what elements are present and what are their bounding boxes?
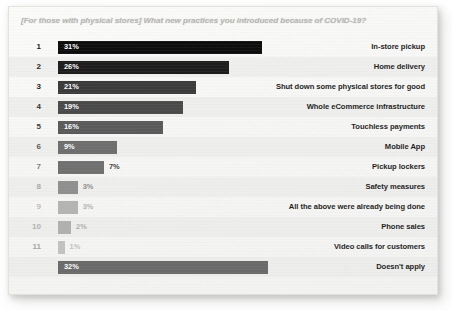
category-label: Pickup lockers [372,157,425,177]
category-label: All the above were already being done [289,197,425,217]
rank-number: 9 [25,197,41,217]
rank-number: 1 [25,37,41,57]
chart-row: 419%Whole eCommerce infrastructure [9,97,437,117]
bar-value-label: 3% [83,177,94,197]
rank-number [25,257,41,277]
bar-track: 3% [58,197,288,217]
category-label: Video calls for customers [334,237,425,257]
rank-number: 3 [25,77,41,97]
category-label: Shut down some physical stores for good [276,77,425,97]
bar-value-label: 1% [70,237,81,257]
bar-track: 1% [58,237,288,257]
bar-track: 26% [58,57,288,77]
chart-row: 32%Doesn't apply [9,257,437,277]
chart-row: 83%Safety measures [9,177,437,197]
bar-value-label: 7% [109,157,120,177]
rank-number: 4 [25,97,41,117]
category-label: Mobile App [385,137,425,157]
category-label: Doesn't apply [376,257,425,277]
bar [58,221,71,234]
rank-number: 8 [25,177,41,197]
bar-value-label: 2% [76,217,87,237]
rank-number: 2 [25,57,41,77]
bar-track: 7% [58,157,288,177]
chart-row: 321%Shut down some physical stores for g… [9,77,437,97]
bar [58,261,268,274]
chart-rows: 131%In-store pickup226%Home delivery321%… [9,37,437,277]
rank-number: 7 [25,157,41,177]
category-label: Safety measures [365,177,425,197]
bar-track: 21% [58,77,288,97]
bar-value-label: 19% [64,97,79,117]
chart-row: 226%Home delivery [9,57,437,77]
category-label: Home delivery [374,57,425,77]
bar-value-label: 26% [64,57,79,77]
bar-value-label: 21% [64,77,79,97]
chart-row: 131%In-store pickup [9,37,437,57]
bar [58,61,229,74]
rank-number: 6 [25,137,41,157]
category-label: Whole eCommerce infrastructure [307,97,425,117]
bar-value-label: 32% [64,257,79,277]
bar-chart: [For those with physical stores] What ne… [9,7,437,294]
bar [58,201,78,214]
bar-track: 16% [58,117,288,137]
bar [58,181,78,194]
bar-value-label: 16% [64,117,79,137]
chart-row: 93%All the above were already being done [9,197,437,217]
rank-number: 10 [25,217,41,237]
bar-track: 31% [58,37,288,57]
chart-row: 111%Video calls for customers [9,237,437,257]
bar-track: 32% [58,257,288,277]
bar [58,41,262,54]
chart-row: 69%Mobile App [9,137,437,157]
bar [58,161,104,174]
chart-title: [For those with physical stores] What ne… [21,16,425,25]
bar [58,241,65,254]
bar-track: 19% [58,97,288,117]
category-label: Phone sales [381,217,425,237]
bar-track: 2% [58,217,288,237]
category-label: Touchless payments [351,117,425,137]
chart-row: 77%Pickup lockers [9,157,437,177]
bar-track: 9% [58,137,288,157]
category-label: In-store pickup [371,37,425,57]
bar-value-label: 9% [64,137,75,157]
rank-number: 11 [25,237,41,257]
chart-page-frame: [For those with physical stores] What ne… [8,6,438,295]
rank-number: 5 [25,117,41,137]
bar-track: 3% [58,177,288,197]
bar-value-label: 31% [64,37,79,57]
bar-value-label: 3% [83,197,94,217]
chart-row: 516%Touchless payments [9,117,437,137]
chart-row: 102%Phone sales [9,217,437,237]
